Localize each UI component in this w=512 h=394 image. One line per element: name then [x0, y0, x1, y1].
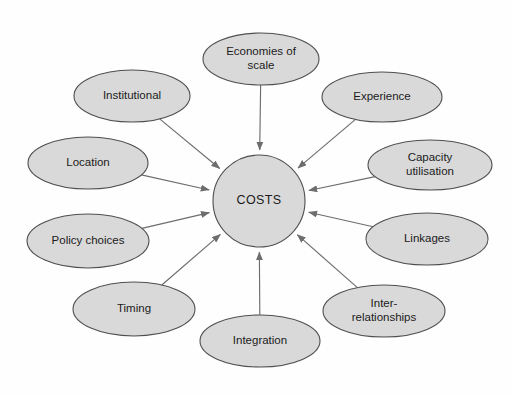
- node-label-location: Location: [66, 156, 109, 168]
- edge-institutional-to-costs: [160, 119, 220, 169]
- node-experience[interactable]: Experience: [322, 72, 442, 122]
- cost-drivers-diagram: Economies ofscaleInstitutionalLocationPo…: [0, 0, 512, 394]
- edge-experience-to-costs: [298, 119, 356, 168]
- node-economies-of-scale[interactable]: Economies ofscale: [203, 33, 319, 85]
- node-label-inter-relationships: Inter-: [371, 297, 398, 309]
- node-policy-choices[interactable]: Policy choices: [27, 214, 149, 268]
- node-timing[interactable]: Timing: [73, 282, 195, 336]
- edge-timing-to-costs: [162, 234, 221, 285]
- node-label-capacity-utilisation: utilisation: [406, 165, 454, 177]
- node-label-timing: Timing: [117, 302, 151, 314]
- node-linkages[interactable]: Linkages: [366, 213, 488, 265]
- node-label-costs: COSTS: [236, 193, 281, 207]
- node-label-linkages: Linkages: [404, 232, 450, 244]
- node-label-capacity-utilisation: Capacity: [408, 151, 453, 163]
- node-integration[interactable]: Integration: [200, 315, 320, 367]
- node-label-policy-choices: Policy choices: [52, 234, 125, 246]
- edge-policy-choices-to-costs: [142, 213, 209, 229]
- node-label-integration: Integration: [233, 334, 287, 346]
- node-label-inter-relationships: relationships: [352, 311, 417, 323]
- node-label-experience: Experience: [353, 90, 411, 102]
- node-label-economies-of-scale: scale: [248, 59, 275, 71]
- node-label-institutional: Institutional: [103, 89, 161, 101]
- node-capacity-utilisation[interactable]: Capacityutilisation: [368, 140, 492, 190]
- diagram-canvas: Economies ofscaleInstitutionalLocationPo…: [0, 0, 512, 394]
- node-costs[interactable]: COSTS: [213, 155, 305, 247]
- node-institutional[interactable]: Institutional: [74, 70, 190, 122]
- node-label-economies-of-scale: Economies of: [226, 45, 296, 57]
- center-node-layer: COSTS: [213, 155, 305, 247]
- edge-economies-of-scale-to-costs: [260, 85, 261, 150]
- node-location[interactable]: Location: [28, 137, 148, 189]
- edge-linkages-to-costs: [309, 212, 373, 227]
- edge-inter-relationships-to-costs: [297, 235, 357, 288]
- edge-capacity-utilisation-to-costs: [309, 177, 375, 191]
- node-inter-relationships[interactable]: Inter-relationships: [323, 285, 445, 337]
- edge-location-to-costs: [141, 175, 209, 190]
